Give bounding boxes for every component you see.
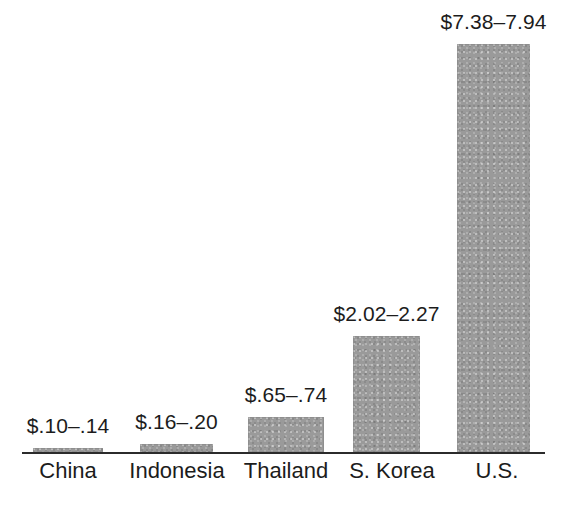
bar-group-indonesia: $.16–.20	[140, 444, 213, 452]
x-axis-baseline	[22, 452, 545, 454]
category-label-indonesia: Indonesia	[129, 458, 224, 484]
bar-group-us: $7.38–7.94	[457, 44, 530, 452]
category-label-china: China	[39, 458, 96, 484]
bar-value-label-thailand: $.65–.74	[245, 383, 328, 407]
category-axis: China Indonesia Thailand S. Korea U.S.	[0, 458, 562, 494]
bar-value-label-us: $7.38–7.94	[440, 10, 546, 34]
bar-group-thailand: $.65–.74	[248, 417, 324, 452]
bar-us	[457, 44, 530, 452]
bar-thailand	[248, 417, 324, 452]
bar-s-korea	[353, 336, 420, 452]
bar-indonesia	[140, 444, 213, 452]
bar-value-label-s-korea: $2.02–2.27	[333, 302, 439, 326]
category-label-s-korea: S. Korea	[349, 458, 435, 484]
plot-area: $.10–.14 $.16–.20 $.65–.74 $2.02–2.27 $7…	[0, 0, 562, 452]
bar-chart: $.10–.14 $.16–.20 $.65–.74 $2.02–2.27 $7…	[0, 0, 562, 508]
bar-value-label-indonesia: $.16–.20	[135, 410, 218, 434]
bar-group-s-korea: $2.02–2.27	[353, 336, 420, 452]
category-label-thailand: Thailand	[244, 458, 328, 484]
category-label-us: U.S.	[476, 458, 519, 484]
bar-value-label-china: $.10–.14	[27, 414, 110, 438]
